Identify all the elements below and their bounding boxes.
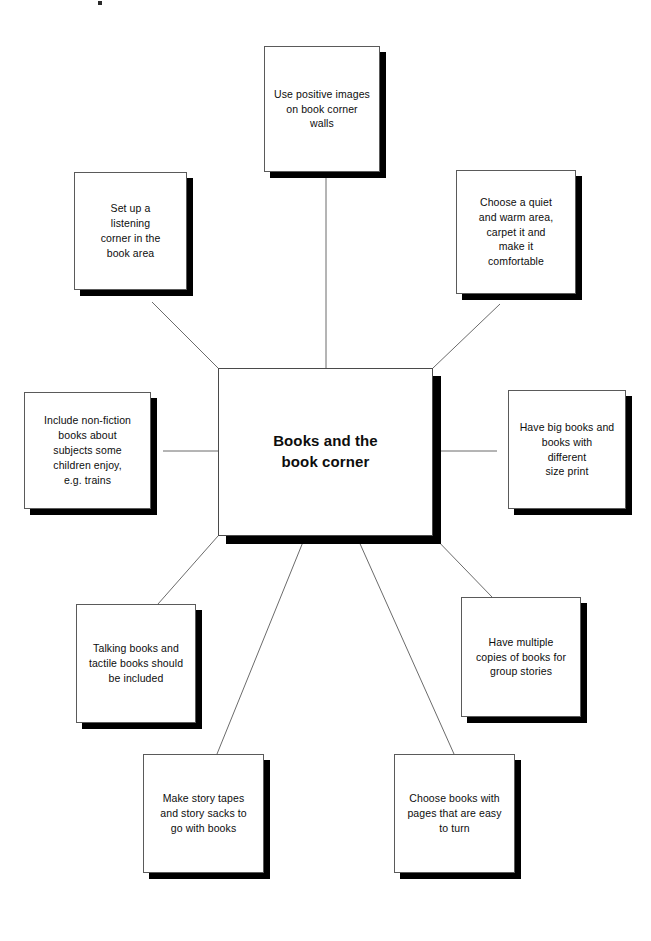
- central-node[interactable]: Books and the book corner: [218, 368, 433, 536]
- connector-to-top-right: [433, 304, 500, 368]
- node-top-left-label: Set up a listening corner in the book ar…: [95, 201, 167, 261]
- node-left[interactable]: Include non-fiction books about subjects…: [24, 392, 151, 509]
- connector-to-bottom-left: [158, 536, 218, 604]
- node-bottom-far-left[interactable]: Make story tapes and story sacks to go w…: [143, 754, 264, 873]
- node-top-label: Use positive images on book corner walls: [268, 87, 376, 132]
- node-left-label: Include non-fiction books about subjects…: [38, 413, 137, 488]
- connector-to-top-left: [152, 302, 218, 368]
- node-top-right-label: Choose a quiet and warm area, carpet it …: [473, 195, 559, 270]
- node-right[interactable]: Have big books and books with different …: [508, 390, 626, 509]
- node-bottom-far-right-label: Choose books with pages that are easy to…: [401, 791, 507, 836]
- scan-artifact-speck: [98, 1, 102, 5]
- node-top-left[interactable]: Set up a listening corner in the book ar…: [74, 172, 187, 290]
- node-bottom-far-left-label: Make story tapes and story sacks to go w…: [154, 791, 252, 836]
- node-top-right[interactable]: Choose a quiet and warm area, carpet it …: [456, 170, 576, 294]
- node-bottom-right[interactable]: Have multiple copies of books for group …: [461, 597, 581, 717]
- connector-to-bottom-far-right: [357, 537, 454, 754]
- central-node-label: Books and the book corner: [267, 431, 384, 472]
- mind-map-diagram: Books and the book corner Use positive i…: [0, 0, 651, 941]
- node-bottom-far-right[interactable]: Choose books with pages that are easy to…: [394, 754, 515, 873]
- connector-to-bottom-right: [433, 536, 492, 597]
- node-bottom-left[interactable]: Talking books and tactile books should b…: [76, 604, 196, 723]
- node-top[interactable]: Use positive images on book corner walls: [264, 46, 380, 172]
- node-right-label: Have big books and books with different …: [514, 420, 621, 480]
- node-bottom-right-label: Have multiple copies of books for group …: [470, 635, 572, 680]
- node-bottom-left-label: Talking books and tactile books should b…: [83, 641, 189, 686]
- connector-to-bottom-far-left: [217, 537, 305, 754]
